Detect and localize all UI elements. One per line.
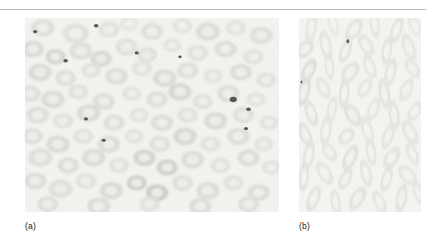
panel-caption-b: (b)	[299, 222, 310, 231]
micrograph-image-b	[299, 18, 421, 212]
micrograph-image-a	[25, 18, 279, 212]
figure-root: (a) (b)	[0, 0, 426, 247]
top-horizontal-rule	[0, 9, 426, 10]
panel-caption-a: (a)	[25, 222, 36, 231]
micrograph-panel-b	[299, 18, 421, 212]
micrograph-panel-a	[25, 18, 279, 212]
